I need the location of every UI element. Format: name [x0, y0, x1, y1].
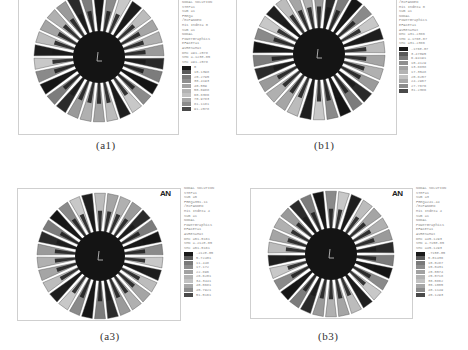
caption-a3: (a3): [100, 330, 120, 342]
panel-b3-frame: AN: [250, 188, 413, 319]
fan-contour-plot-b1: [237, 0, 398, 136]
fan-hub: [73, 31, 125, 83]
panel-a1-frame: [18, 0, 179, 135]
legend-swatch: [184, 252, 193, 256]
legend-header-line: SMX =51.5161: [184, 246, 214, 251]
legend-swatch: [182, 93, 191, 97]
legend-swatch: [399, 66, 408, 70]
legend-swatch: [182, 102, 191, 106]
ansys-logo-b3: AN: [392, 189, 403, 198]
legend-header-line: Mis Index= 4: [416, 209, 446, 214]
legend-swatch: [399, 75, 408, 79]
legend-swatch: [182, 107, 191, 111]
legend-swatch: [184, 270, 193, 274]
fan-contour-plot-b3: [251, 189, 414, 320]
legend-value: 91.2578: [194, 107, 209, 112]
legend-header-line: NODAL SOLUTION: [182, 0, 212, 5]
legend-row: 31.2386: [399, 88, 428, 93]
legend-row: 51.5161: [184, 293, 214, 298]
legend-color-scale: .715E-055.0143610.028715.043120.057425.0…: [416, 251, 446, 297]
legend-header-line: SMX =31.2386: [399, 41, 428, 46]
legend-swatch: [416, 279, 425, 283]
legend-swatch: [416, 284, 425, 288]
legend-header: NODAL SOLUTIONSTEP=1SUB =1FREQ=/EXPANDED…: [182, 0, 212, 64]
legend-swatch: [184, 293, 193, 297]
legend-swatch: [184, 288, 193, 292]
legend-swatch: [184, 279, 193, 283]
legend-swatch: [416, 252, 425, 256]
legend-header-line: SMX =91.2578: [182, 60, 212, 65]
caption-a1: (a1): [96, 139, 116, 151]
fan-hub: [75, 231, 125, 281]
legend-swatch: [182, 79, 191, 83]
legend-swatch: [416, 293, 425, 297]
legend-swatch: [184, 261, 193, 265]
legend-swatch: [399, 52, 408, 56]
panel-b1-frame: [236, 0, 397, 135]
fan-hub: [293, 28, 345, 80]
legend-color-scale: 010.139820.279530.419340.55950.698860.83…: [182, 65, 212, 111]
legend-header-line: Mis Index= 4: [184, 209, 214, 214]
legend-swatch: [399, 79, 408, 83]
legend-a3: NODAL SOLUTIONSTEP=1SUB =5FREQ=351.11/EX…: [184, 186, 214, 297]
legend-header: NODAL SOLUTIONSTEP=1SUB =5FREQ=351.11/EX…: [184, 186, 214, 250]
legend-swatch: [184, 284, 193, 288]
legend-a1: NODAL SOLUTIONSTEP=1SUB =1FREQ=/EXPANDED…: [182, 0, 212, 111]
legend-swatch: [416, 270, 425, 274]
legend-swatch: [182, 70, 191, 74]
panel-a3-frame: AN: [17, 188, 181, 321]
fan-contour-plot-a3: [18, 189, 182, 322]
legend-header-line: NODAL SOLUTION: [416, 186, 446, 191]
caption-b3: (b3): [318, 330, 338, 342]
legend-header-line: NODAL SOLUTION: [184, 186, 214, 191]
legend-swatch: [184, 275, 193, 279]
legend-row: 91.2578: [182, 107, 212, 112]
legend-swatch: [399, 89, 408, 93]
legend-swatch: [399, 61, 408, 65]
ansys-logo-a3: AN: [160, 189, 171, 198]
legend-swatch: [399, 56, 408, 60]
legend-swatch: [416, 256, 425, 260]
legend-swatch: [182, 75, 191, 79]
caption-b1: (b1): [314, 139, 334, 151]
legend-swatch: [184, 265, 193, 269]
legend-swatch: [182, 66, 191, 70]
legend-swatch: [399, 84, 408, 88]
legend-swatch: [182, 98, 191, 102]
legend-row: 45.1293: [416, 293, 446, 298]
legend-swatch: [182, 89, 191, 93]
fan-hub: [305, 228, 357, 280]
legend-swatch: [399, 70, 408, 74]
legend-color-scale: .176E-073.470956.9419110.412913.883817.3…: [399, 47, 428, 93]
legend-header-line: Mis Index= 0: [182, 23, 212, 28]
legend-color-scale: .212E-055.7240111.44817.17222.89628.6201…: [184, 251, 214, 297]
legend-swatch: [182, 84, 191, 88]
fan-contour-plot-a1: [19, 0, 180, 136]
legend-swatch: [399, 47, 408, 51]
legend-value: 31.2386: [411, 88, 426, 93]
legend-header: /EXPANDEDMis Index= 0SUB =1NODALPowerGra…: [399, 0, 428, 46]
legend-swatch: [416, 275, 425, 279]
legend-b1: /EXPANDEDMis Index= 0SUB =1NODALPowerGra…: [399, 0, 428, 93]
legend-header-line: SMX =45.1293: [416, 246, 446, 251]
legend-value: 45.1293: [428, 293, 443, 298]
legend-swatch: [416, 261, 425, 265]
legend-swatch: [184, 256, 193, 260]
legend-swatch: [416, 288, 425, 292]
legend-swatch: [416, 265, 425, 269]
legend-header: NODAL SOLUTIONSTEP=1SUB =3FREQ=241.44/EX…: [416, 186, 446, 250]
legend-value: 51.5161: [196, 293, 211, 298]
legend-b3: NODAL SOLUTIONSTEP=1SUB =3FREQ=241.44/EX…: [416, 186, 446, 297]
